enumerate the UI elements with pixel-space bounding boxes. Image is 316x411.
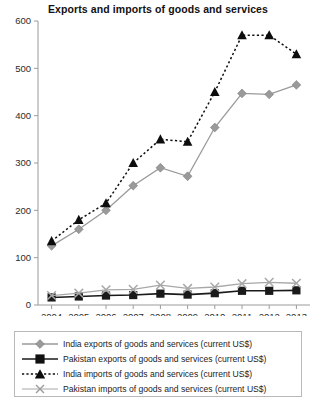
chart-svg: 0100200300400500600 20042005200620072008… <box>0 16 316 316</box>
legend-key-diamond-icon <box>21 337 59 351</box>
x-axis-ticks: 2004200520062007200820092010201120122013 <box>41 305 307 316</box>
chart-page: Exports and imports of goods and service… <box>0 0 316 411</box>
svg-text:500: 500 <box>15 63 31 74</box>
svg-text:2010: 2010 <box>204 311 225 316</box>
svg-text:2005: 2005 <box>68 311 89 316</box>
legend-item-pakistan-imports[interactable]: Pakistan imports of goods and services (… <box>21 381 295 396</box>
svg-text:2008: 2008 <box>150 311 171 316</box>
page-title: Exports and imports of goods and service… <box>0 3 316 15</box>
svg-text:2013: 2013 <box>286 311 307 316</box>
svg-text:300: 300 <box>15 157 31 168</box>
legend-key-x-icon <box>21 382 59 396</box>
svg-text:2011: 2011 <box>232 311 252 316</box>
y-axis-ticks: 0100200300400500600 <box>15 16 38 310</box>
chart-legend: India exports of goods and services (cur… <box>14 331 302 397</box>
legend-label: India imports of goods and services (cur… <box>63 367 252 381</box>
svg-text:100: 100 <box>15 252 31 263</box>
svg-text:2012: 2012 <box>259 311 280 316</box>
legend-label: Pakistan imports of goods and services (… <box>63 382 266 396</box>
svg-text:600: 600 <box>15 16 31 26</box>
legend-item-pakistan-exports[interactable]: Pakistan exports of goods and services (… <box>21 351 295 366</box>
svg-text:400: 400 <box>15 110 31 121</box>
svg-text:2006: 2006 <box>95 311 116 316</box>
axis-lines <box>38 21 310 305</box>
svg-text:2009: 2009 <box>177 311 198 316</box>
legend-label: Pakistan exports of goods and services (… <box>63 352 266 366</box>
legend-label: India exports of goods and services (cur… <box>63 337 252 351</box>
svg-text:0: 0 <box>26 299 31 310</box>
svg-text:2007: 2007 <box>123 311 144 316</box>
legend-item-india-imports[interactable]: India imports of goods and services (cur… <box>21 366 295 381</box>
svg-text:2004: 2004 <box>41 311 62 316</box>
plot-area: 0100200300400500600 20042005200620072008… <box>0 16 316 316</box>
legend-key-triangle-icon <box>21 367 59 381</box>
svg-text:200: 200 <box>15 205 31 216</box>
legend-item-india-exports[interactable]: India exports of goods and services (cur… <box>21 336 295 351</box>
data-series-layer <box>47 30 301 301</box>
legend-key-square-icon <box>21 352 59 366</box>
